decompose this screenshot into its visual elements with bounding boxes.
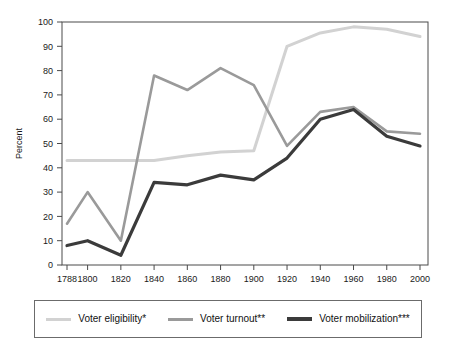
y-axis-label: Percent bbox=[14, 127, 24, 159]
y-tick-label: 20 bbox=[43, 212, 53, 222]
x-tick-label: 1960 bbox=[344, 274, 364, 284]
y-axis-tick-labels: 0102030405060708090100 bbox=[38, 17, 53, 270]
y-tick-label: 10 bbox=[43, 236, 53, 246]
legend-item-label: Voter eligibility* bbox=[78, 314, 146, 324]
chart-legend: Voter eligibility*Voter turnout**Voter m… bbox=[34, 300, 422, 338]
legend-swatch-icon bbox=[168, 318, 193, 321]
series-line-2 bbox=[67, 109, 420, 255]
x-tick-label: 1920 bbox=[277, 274, 297, 284]
y-axis-title: Percent bbox=[14, 127, 24, 159]
y-tick-label: 50 bbox=[43, 139, 53, 149]
legend-item-0[interactable]: Voter eligibility* bbox=[46, 314, 146, 324]
y-tick-label: 0 bbox=[48, 260, 53, 270]
legend-item-2[interactable]: Voter mobilization*** bbox=[287, 314, 410, 324]
legend-swatch-icon bbox=[287, 317, 312, 321]
y-tick-label: 70 bbox=[43, 90, 53, 100]
legend-item-label: Voter mobilization*** bbox=[319, 314, 410, 324]
chart-figure: 0102030405060708090100 17881800182018401… bbox=[0, 0, 456, 351]
x-tick-label: 1840 bbox=[144, 274, 164, 284]
y-tick-label: 40 bbox=[43, 163, 53, 173]
legend-item-label: Voter turnout** bbox=[200, 314, 265, 324]
x-axis-tick-labels: 1788180018201840186018801900192019401960… bbox=[57, 274, 430, 284]
y-tick-label: 90 bbox=[43, 42, 53, 52]
legend-item-1[interactable]: Voter turnout** bbox=[168, 314, 265, 324]
x-tick-label: 1940 bbox=[310, 274, 330, 284]
series-line-1 bbox=[67, 68, 420, 241]
data-series-group bbox=[67, 27, 420, 255]
x-tick-label: 1880 bbox=[211, 274, 231, 284]
y-axis-ticks bbox=[57, 22, 62, 265]
x-tick-label: 1900 bbox=[244, 274, 264, 284]
y-tick-label: 80 bbox=[43, 66, 53, 76]
x-tick-label: 1788 bbox=[57, 274, 77, 284]
x-tick-label: 1860 bbox=[177, 274, 197, 284]
y-tick-label: 100 bbox=[38, 17, 53, 27]
x-axis-ticks bbox=[67, 265, 420, 270]
y-tick-label: 30 bbox=[43, 187, 53, 197]
x-tick-label: 1980 bbox=[377, 274, 397, 284]
x-tick-label: 2000 bbox=[410, 274, 430, 284]
legend-swatch-icon bbox=[46, 318, 71, 321]
line-chart: 0102030405060708090100 17881800182018401… bbox=[0, 0, 456, 351]
series-line-0 bbox=[67, 27, 420, 161]
plot-frame bbox=[62, 22, 428, 265]
y-tick-label: 60 bbox=[43, 114, 53, 124]
x-tick-label: 1800 bbox=[78, 274, 98, 284]
x-tick-label: 1820 bbox=[111, 274, 131, 284]
